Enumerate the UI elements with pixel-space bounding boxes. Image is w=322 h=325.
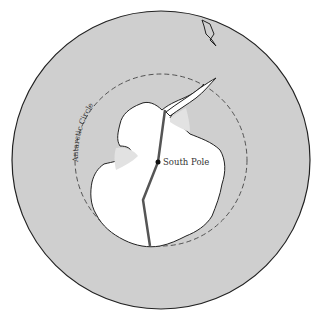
antarctica-map: South Pole Antarctic Circle bbox=[0, 0, 322, 325]
south-pole-label: South Pole bbox=[163, 157, 209, 167]
south-pole-marker bbox=[156, 160, 161, 165]
